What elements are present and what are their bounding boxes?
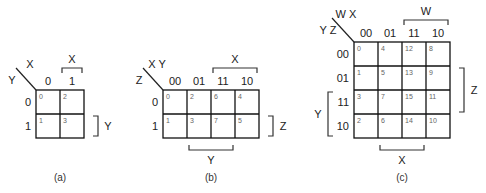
column-header: 10 <box>432 27 444 39</box>
cell-minterm: 6 <box>214 93 218 100</box>
right-bracket <box>268 116 273 136</box>
cell-minterm: 6 <box>381 117 385 124</box>
column-header: 1 <box>69 75 75 87</box>
right-bracket <box>459 68 464 112</box>
cell-minterm: 5 <box>381 69 385 76</box>
row-header: 0 <box>25 96 31 108</box>
cell-minterm: 3 <box>63 117 67 124</box>
top-bracket <box>404 20 448 25</box>
cell-minterm: 13 <box>405 69 413 76</box>
column-header: 11 <box>217 75 228 87</box>
cell-minterm: 0 <box>357 45 361 52</box>
column-header: 10 <box>241 75 253 87</box>
kmap-c: 04128151393715112614100001111000011110W … <box>314 5 477 183</box>
left-bracket <box>328 92 333 136</box>
column-header: 0 <box>45 75 51 87</box>
cell-minterm: 3 <box>357 93 361 100</box>
column-header: 00 <box>360 27 372 39</box>
right-bracket-label: Z <box>280 120 287 132</box>
cell-minterm: 11 <box>429 93 436 100</box>
top-bracket <box>213 68 257 73</box>
right-bracket-label: Y <box>104 120 112 132</box>
cell-minterm: 2 <box>357 117 361 124</box>
column-header: 11 <box>408 27 419 39</box>
cell-minterm: 1 <box>39 117 43 124</box>
row-header: 11 <box>338 96 349 108</box>
cell-minterm: 15 <box>405 93 413 100</box>
figure-caption: (a) <box>54 172 66 183</box>
column-header: 00 <box>169 75 181 87</box>
column-header: 01 <box>193 75 205 87</box>
cell-minterm: 5 <box>238 117 242 124</box>
top-bracket-label: W <box>421 5 432 17</box>
row-variable-label: Y Z <box>320 24 337 36</box>
karnaugh-maps-figure: 02130101XYXY(a)026413750001111001X YZXZY… <box>0 0 486 193</box>
bottom-bracket-label: X <box>398 154 406 166</box>
right-bracket-label: Z <box>471 84 478 96</box>
row-header: 1 <box>25 120 31 132</box>
column-variable-label: W X <box>336 8 357 20</box>
right-bracket <box>93 116 98 136</box>
cell-minterm: 12 <box>405 45 413 52</box>
cell-minterm: 9 <box>429 69 433 76</box>
row-header: 01 <box>337 72 349 84</box>
top-bracket <box>62 68 82 73</box>
cell-minterm: 1 <box>357 69 361 76</box>
row-variable-label: Y <box>8 74 16 86</box>
cell-minterm: 0 <box>39 93 43 100</box>
cell-minterm: 7 <box>214 117 218 124</box>
cell-minterm: 2 <box>63 93 67 100</box>
bottom-bracket-label: Y <box>207 154 215 166</box>
cell-minterm: 1 <box>166 117 170 124</box>
kmap-b: 026413750001111001X YZXZY(b) <box>136 53 287 183</box>
row-header: 00 <box>337 48 349 60</box>
top-bracket-label: X <box>68 53 76 65</box>
bottom-bracket <box>189 145 233 150</box>
cell-minterm: 7 <box>381 93 385 100</box>
row-header: 1 <box>152 120 158 132</box>
corner-diagonal <box>143 68 163 90</box>
kmap-a: 02130101XYXY(a) <box>8 53 112 183</box>
cell-minterm: 4 <box>381 45 385 52</box>
column-variable-label: X <box>26 58 34 70</box>
corner-diagonal <box>16 68 36 90</box>
cell-minterm: 10 <box>429 117 437 124</box>
row-variable-label: Z <box>136 74 143 86</box>
top-bracket-label: X <box>231 53 239 65</box>
bottom-bracket <box>380 145 424 150</box>
figure-caption: (b) <box>205 172 217 183</box>
figure-caption: (c) <box>396 172 408 183</box>
cell-minterm: 0 <box>166 93 170 100</box>
row-header: 10 <box>337 120 349 132</box>
cell-minterm: 8 <box>429 45 433 52</box>
cell-minterm: 14 <box>405 117 413 124</box>
column-header: 01 <box>384 27 396 39</box>
left-bracket-label: Y <box>314 108 322 120</box>
cell-minterm: 3 <box>190 117 194 124</box>
cell-minterm: 4 <box>238 93 242 100</box>
cell-minterm: 2 <box>190 93 194 100</box>
column-variable-label: X Y <box>148 58 166 70</box>
row-header: 0 <box>152 96 158 108</box>
